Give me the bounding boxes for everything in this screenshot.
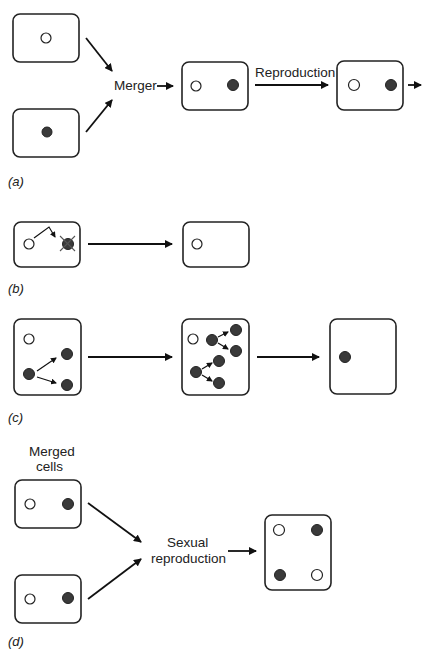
dark-organelle bbox=[214, 356, 225, 367]
panel-label-d: (d) bbox=[8, 634, 24, 649]
dark-organelle bbox=[231, 346, 242, 357]
dark-organelle bbox=[191, 367, 202, 378]
dark-organelle bbox=[386, 80, 397, 91]
dark-organelle bbox=[207, 335, 218, 346]
dark-organelle bbox=[275, 570, 286, 581]
merged-cells-label: Merged bbox=[29, 444, 75, 459]
panel-b: (b) bbox=[8, 222, 249, 296]
dark-organelle bbox=[62, 380, 73, 391]
dark-organelle bbox=[340, 352, 351, 363]
dark-organelle bbox=[63, 593, 74, 604]
white-organelle bbox=[188, 334, 198, 344]
cell-merger-diagram: Merger Reproduction (a) (b) bbox=[0, 0, 429, 652]
dark-organelle bbox=[42, 127, 52, 137]
white-organelle bbox=[24, 239, 34, 249]
white-organelle bbox=[41, 33, 51, 43]
reproduction-label: Reproduction bbox=[255, 65, 335, 80]
panel-label-b: (b) bbox=[8, 281, 24, 296]
panel-a: Merger Reproduction (a) bbox=[8, 14, 421, 189]
merger-label: Merger bbox=[114, 78, 157, 93]
dark-organelle bbox=[24, 369, 35, 380]
arrow-icon bbox=[86, 100, 112, 132]
arrow-icon bbox=[88, 559, 141, 599]
white-organelle bbox=[24, 334, 34, 344]
arrow-icon bbox=[88, 503, 141, 542]
dark-organelle bbox=[214, 378, 225, 389]
sexual-reproduction-label: reproduction bbox=[151, 551, 226, 566]
white-organelle bbox=[25, 594, 35, 604]
white-organelle bbox=[274, 525, 285, 536]
panel-d: Merged cells Sexual reproduction (d) bbox=[8, 444, 331, 649]
white-organelle bbox=[349, 80, 360, 91]
arrow-icon bbox=[86, 38, 112, 71]
white-organelle bbox=[191, 81, 201, 91]
white-organelle bbox=[192, 239, 202, 249]
merged-cells-label: cells bbox=[36, 459, 63, 474]
sexual-reproduction-label: Sexual bbox=[167, 535, 208, 550]
panel-label-a: (a) bbox=[8, 174, 24, 189]
dark-organelle bbox=[63, 499, 74, 510]
panel-label-c: (c) bbox=[8, 410, 23, 425]
dark-organelle bbox=[312, 525, 323, 536]
panel-c: (c) bbox=[8, 319, 396, 425]
dark-organelle bbox=[228, 80, 239, 91]
dark-organelle bbox=[231, 325, 242, 336]
dark-organelle bbox=[62, 349, 73, 360]
white-organelle bbox=[25, 499, 35, 509]
white-organelle bbox=[312, 570, 323, 581]
